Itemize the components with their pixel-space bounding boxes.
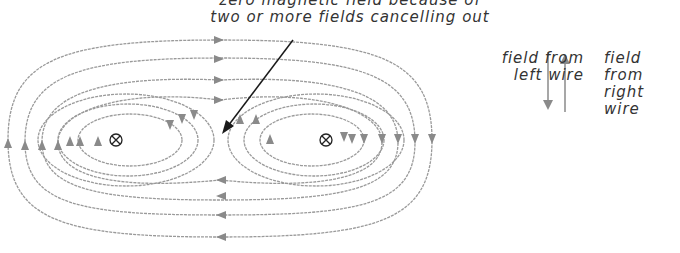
legend-right-label: field from right wire	[604, 50, 680, 118]
legend-left-line-1: field from	[500, 50, 584, 67]
right-wire-symbol	[320, 134, 332, 146]
caption: zero magnetic field because of two or mo…	[0, 0, 680, 26]
legend-left-label: field from left wire	[500, 50, 584, 84]
legend-right-line-1: field from	[604, 50, 680, 84]
left-wire-symbol	[110, 134, 122, 146]
legend-left-line-2: left wire	[500, 67, 584, 84]
legend-right-line-2: right wire	[604, 84, 680, 118]
arrowheads	[4, 36, 436, 241]
field-line-outer-1	[8, 40, 432, 237]
field-line-outer-4	[58, 97, 382, 184]
caption-line-2: two or more fields cancelling out	[0, 9, 680, 26]
field-diagram	[0, 0, 680, 253]
